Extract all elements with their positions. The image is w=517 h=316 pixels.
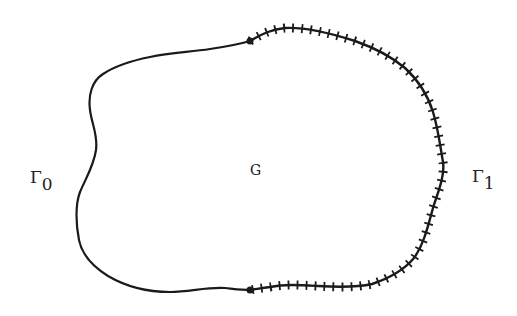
domain-diagram: Γ0 G Γ1	[0, 0, 517, 316]
label-region-g: G	[250, 162, 261, 178]
boundary-gamma1-hatching	[250, 28, 443, 290]
label-gamma0: Γ0	[30, 167, 53, 194]
label-gamma0-sub: 0	[42, 174, 53, 194]
junction-point-bottom	[247, 287, 254, 294]
boundary-gamma0	[77, 41, 251, 292]
label-gamma1: Γ1	[472, 166, 495, 193]
label-gamma1-sub: 1	[484, 173, 495, 193]
label-gamma1-main: Γ	[472, 166, 484, 186]
junction-point-top	[247, 38, 254, 45]
label-gamma0-main: Γ	[30, 167, 42, 187]
boundary-gamma1	[250, 28, 443, 290]
